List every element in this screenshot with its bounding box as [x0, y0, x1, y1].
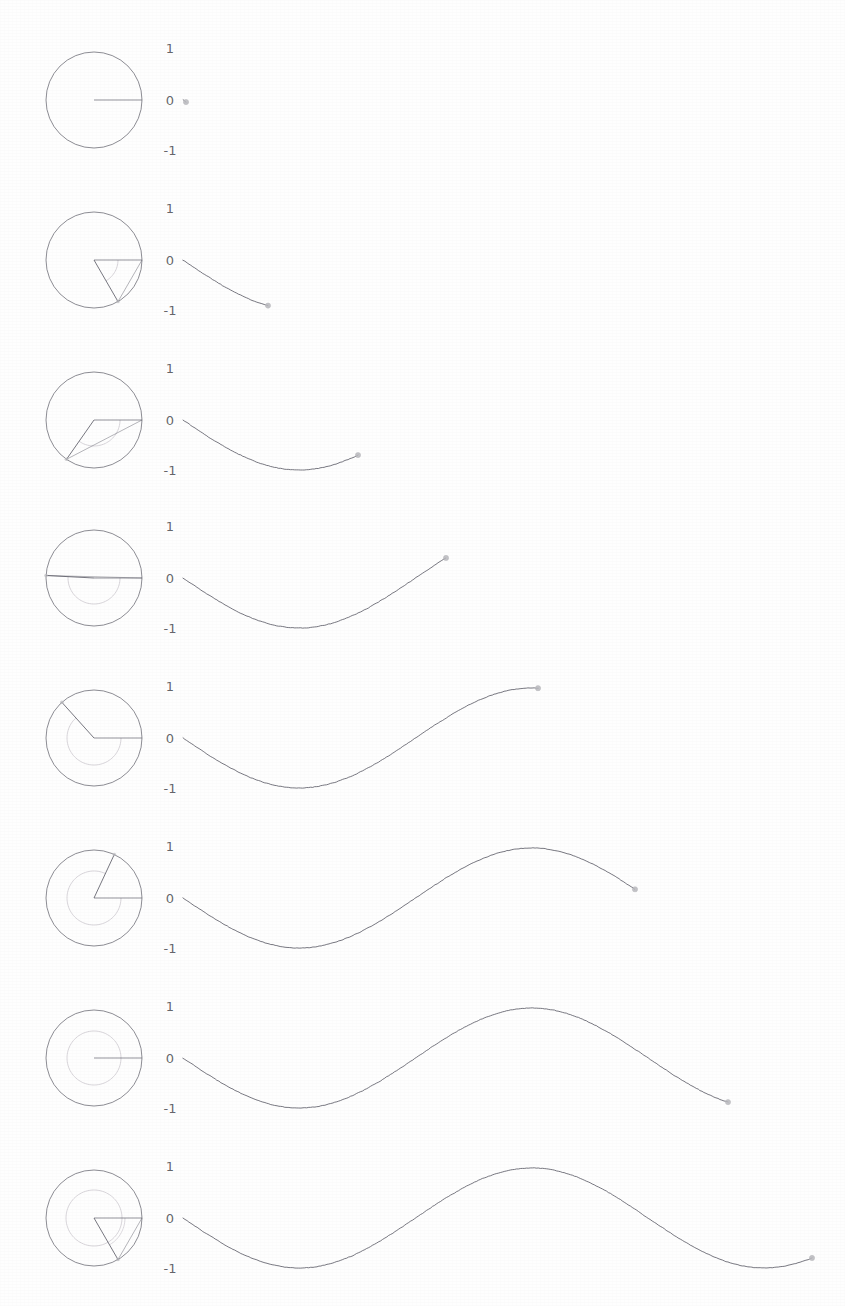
frame-2: 10-1 [46, 201, 271, 318]
tick-label-top-3: 1 [166, 361, 174, 376]
tick-label-top-2: 1 [166, 201, 174, 216]
tick-label-bottom-8: -1 [164, 1261, 177, 1276]
frame-5: 10-1 [46, 679, 541, 796]
wave-endpoint-marker-5 [535, 686, 540, 691]
circle-point-marker-8 [116, 1258, 120, 1262]
frame-1: 10-1 [46, 41, 189, 158]
tick-label-bottom-5: -1 [164, 781, 177, 796]
tick-label-top-5: 1 [166, 679, 174, 694]
frame-4: 10-1 [44, 519, 448, 636]
wave-endpoint-marker-1 [183, 99, 188, 104]
wedge-chord-2 [118, 260, 142, 302]
tick-label-bottom-4: -1 [164, 621, 177, 636]
frame-8: 10-1 [46, 1159, 815, 1276]
sine-curve-2 [183, 260, 268, 305]
tick-label-zero-1: 0 [166, 93, 174, 108]
tick-label-top-1: 1 [166, 41, 174, 56]
frame-3: 10-1 [46, 361, 361, 478]
angle-arc-second-lap-8 [110, 1218, 126, 1245]
circle-point-marker-4 [44, 574, 48, 578]
sine-curve-3 [183, 420, 358, 470]
tick-label-zero-8: 0 [166, 1211, 174, 1226]
tick-label-bottom-1: -1 [164, 143, 177, 158]
wave-endpoint-marker-6 [632, 887, 637, 892]
circle-point-marker-2 [116, 300, 120, 304]
tick-label-zero-7: 0 [166, 1051, 174, 1066]
tick-label-bottom-2: -1 [164, 303, 177, 318]
angle-arc-2 [106, 260, 118, 281]
wave-endpoint-marker-8 [809, 1255, 814, 1260]
tick-label-top-8: 1 [166, 1159, 174, 1174]
wave-endpoint-marker-2 [265, 303, 270, 308]
wedge-chord-3 [66, 420, 142, 459]
angle-arc-5 [67, 718, 121, 765]
tick-label-top-4: 1 [166, 519, 174, 534]
sine-curve-4 [183, 558, 446, 628]
tick-label-bottom-6: -1 [164, 941, 177, 956]
rotating-radius-2 [94, 260, 118, 302]
rotating-radius-3 [66, 420, 94, 459]
sine-curve-5 [183, 688, 538, 788]
sine-curve-6 [183, 848, 635, 948]
wave-endpoint-marker-4 [443, 555, 448, 560]
angle-arc-4 [68, 577, 120, 604]
rotating-radius-8 [94, 1218, 118, 1260]
tick-label-top-6: 1 [166, 839, 174, 854]
tick-label-zero-4: 0 [166, 571, 174, 586]
circle-point-marker-6 [112, 853, 116, 857]
tick-label-zero-2: 0 [166, 253, 174, 268]
wave-endpoint-marker-3 [355, 452, 360, 457]
circle-point-marker-3 [65, 458, 69, 462]
sine-strip-canvas: 10-110-110-110-110-110-110-110-1 [0, 0, 845, 1306]
rotating-radius-6 [94, 855, 114, 899]
rotating-radius-5 [62, 702, 94, 738]
sine-animation-strip: 10-110-110-110-110-110-110-110-1 [0, 0, 845, 1306]
tick-label-zero-6: 0 [166, 891, 174, 906]
frame-7: 10-1 [46, 999, 731, 1116]
tick-label-zero-3: 0 [166, 413, 174, 428]
tick-label-bottom-7: -1 [164, 1101, 177, 1116]
circle-point-marker-5 [60, 701, 64, 705]
wave-endpoint-marker-7 [725, 1100, 730, 1105]
tick-label-zero-5: 0 [166, 731, 174, 746]
sine-curve-8 [183, 1168, 812, 1268]
tick-label-top-7: 1 [166, 999, 174, 1014]
sine-curve-7 [183, 1008, 728, 1108]
tick-label-bottom-3: -1 [164, 463, 177, 478]
frame-6: 10-1 [46, 839, 638, 956]
